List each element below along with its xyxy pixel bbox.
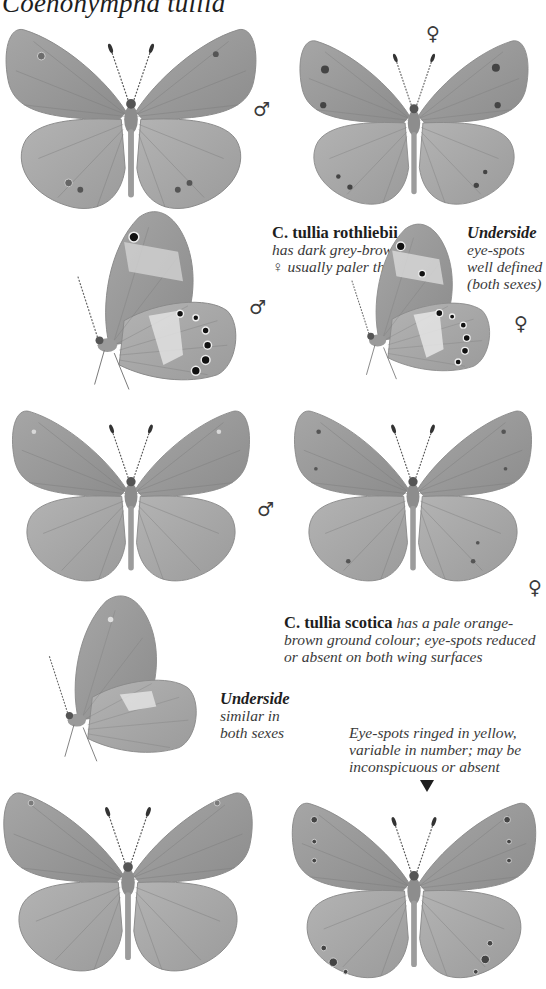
caption-underside-line1: eye-spots	[467, 241, 542, 258]
caption-eyespots-line2: variable in number; may be	[349, 741, 521, 758]
caption-underside-line2: well defined	[467, 258, 542, 275]
male-symbol: ♂	[253, 100, 270, 119]
caption-underside-rothliebii: Underside eye-spots well defined (both s…	[467, 224, 542, 292]
butterfly-figure-3-underside	[70, 206, 242, 396]
caption-scotica: C. tullia scotica has a pale orange- bro…	[284, 614, 546, 665]
butterfly-figure-2	[284, 34, 544, 212]
butterfly-figure-7-underside	[42, 584, 202, 774]
caption-underside-scotica-heading: Underside	[220, 690, 290, 707]
female-symbol: ♀	[514, 314, 528, 333]
butterfly-figure-8	[2, 780, 254, 985]
caption-eyespots-line3: inconspicuous or absent	[349, 758, 521, 775]
pointer-arrow-icon	[420, 780, 434, 792]
caption-underside-scotica-line2: both sexes	[220, 724, 290, 741]
butterfly-figure-6	[284, 404, 542, 589]
female-symbol: ♀	[426, 24, 440, 43]
caption-underside-scotica: Underside similar in both sexes	[220, 690, 290, 741]
caption-underside-line3: (both sexes)	[467, 275, 542, 292]
caption-scotica-line1: has a pale orange-	[397, 614, 514, 631]
caption-scotica-line2: brown ground colour; eye-spots reduced	[284, 631, 546, 648]
caption-scotica-line3: or absent on both wing surfaces	[284, 648, 546, 665]
butterfly-figure-5	[0, 404, 262, 589]
caption-underside-scotica-line1: similar in	[220, 707, 290, 724]
caption-underside-heading: Underside	[467, 224, 542, 241]
male-symbol: ♂	[257, 500, 274, 519]
butterfly-figure-9	[286, 796, 542, 986]
caption-eyespots-note: Eye-spots ringed in yellow, variable in …	[349, 724, 521, 775]
caption-scotica-name: C. tullia scotica	[284, 613, 393, 632]
butterfly-figure-1	[2, 22, 260, 217]
female-symbol: ♀	[528, 578, 542, 597]
page-title: Coenonympha tullia	[2, 0, 225, 19]
caption-eyespots-line1: Eye-spots ringed in yellow,	[349, 724, 521, 741]
male-symbol: ♂	[249, 298, 266, 317]
